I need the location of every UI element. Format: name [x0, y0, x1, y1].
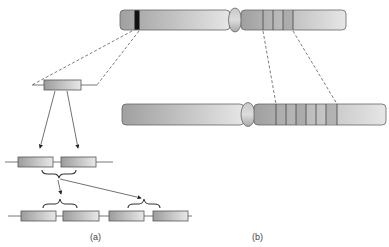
zoom-lines-b — [263, 31, 337, 104]
brace-top-2 — [128, 199, 160, 208]
zoom-lines-a — [32, 31, 139, 85]
top-chromosome — [120, 8, 346, 32]
bottom-chromosome-centromere — [241, 103, 255, 127]
gene-box-2 — [61, 157, 96, 167]
diagram-canvas — [0, 0, 389, 247]
brace-top-1 — [43, 199, 77, 208]
bottom-chromosome-right-arm — [254, 104, 386, 125]
top-chromosome-right-arm — [241, 10, 346, 30]
panel-b-label: (b) — [252, 232, 263, 242]
panel-a-label: (a) — [90, 232, 101, 242]
bottom-chromosome — [122, 103, 386, 127]
gene-box-1 — [18, 157, 53, 167]
brace-bottom — [42, 170, 76, 178]
bottom-chromosome-left-arm — [122, 104, 244, 125]
gene-box-5 — [109, 211, 144, 221]
gene-box-3 — [21, 211, 56, 221]
top-chromosome-black-band — [135, 10, 140, 29]
gene-box — [44, 80, 81, 90]
single-gene — [32, 80, 97, 90]
gene-box-6 — [153, 211, 188, 221]
quadruplicated-genes — [8, 211, 192, 221]
duplicated-genes — [5, 157, 113, 167]
top-chromosome-centromere — [229, 8, 242, 32]
duplication-arrows — [40, 91, 78, 148]
gene-duplication-diagram: (a) (b) — [0, 0, 389, 247]
gene-box-4 — [63, 211, 99, 221]
second-duplication-arrows — [58, 179, 141, 198]
